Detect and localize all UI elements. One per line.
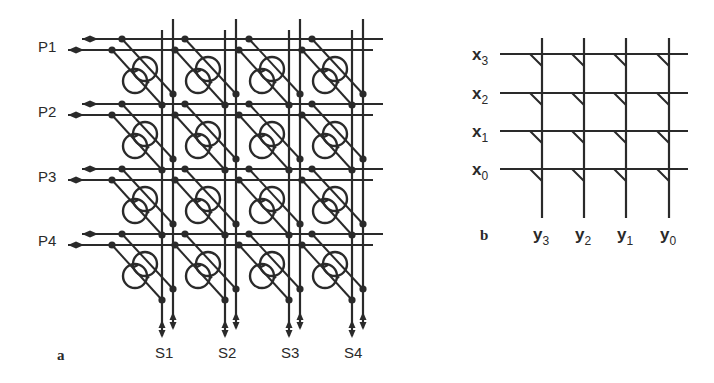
bidirectional-arrow-icon <box>68 47 84 54</box>
junction-dot <box>285 231 292 238</box>
diagonal-connector-line <box>122 104 173 159</box>
row-label-p4: P4 <box>38 232 56 249</box>
crosspoint-switch <box>171 230 239 303</box>
junction-dot <box>359 220 366 227</box>
junction-dot <box>285 101 292 108</box>
diagonal-connector-line <box>185 39 236 94</box>
crosspoint-tick <box>657 54 669 66</box>
junction-dot <box>359 285 366 292</box>
junction-dot <box>296 155 303 162</box>
junction-dot <box>232 220 239 227</box>
bidirectional-arrow-icon <box>82 231 98 238</box>
junction-dot <box>296 285 303 292</box>
crosspoint-switch <box>171 165 239 238</box>
crosspoint-tick <box>572 54 584 66</box>
crosspoint-tick <box>614 54 626 66</box>
row-label-p3: P3 <box>38 168 56 185</box>
junction-dot <box>169 220 176 227</box>
bidirectional-arrow-icon <box>68 242 84 249</box>
bidirectional-arrow-icon <box>68 112 84 119</box>
crosspoint-switch <box>298 165 366 238</box>
junction-dot <box>158 101 165 108</box>
crosspoint-switch <box>235 165 303 238</box>
row-label-x0: x0 <box>472 160 488 183</box>
crossbar-figure: P1 P2 P3 P4 S1 S2 S3 S4 a x3 x2 x1 x0 y3… <box>0 0 714 383</box>
diagonal-connector-line <box>185 234 236 289</box>
column-label-s2: S2 <box>218 344 236 361</box>
crosspoint-tick <box>657 131 669 143</box>
diagonal-connector-line <box>312 104 363 159</box>
column-label-s1: S1 <box>155 344 173 361</box>
crosspoint-switch <box>171 100 239 173</box>
junction-dot <box>232 285 239 292</box>
junction-dot <box>158 231 165 238</box>
junction-dot <box>232 155 239 162</box>
junction-dot <box>221 231 228 238</box>
crosspoint-tick <box>657 169 669 181</box>
diagonal-connector-line <box>249 234 300 289</box>
column-label-y2: y2 <box>575 225 591 248</box>
diagonal-connector-line <box>312 169 363 224</box>
crosspoint-tick <box>530 169 542 181</box>
column-label-y0: y0 <box>660 225 676 248</box>
panel-b-row-labels: x3 x2 x1 x0 <box>472 45 488 183</box>
junction-dot <box>348 231 355 238</box>
panel-a-crossbar-switch <box>68 19 383 338</box>
row-label-x2: x2 <box>472 84 488 107</box>
bidirectional-arrow-icon <box>82 101 98 108</box>
column-label-y3: y3 <box>533 225 549 248</box>
diagonal-connector-line <box>185 169 236 224</box>
crosspoint-switch <box>235 35 303 108</box>
diagonal-connector-line <box>312 39 363 94</box>
column-label-s3: S3 <box>281 344 299 361</box>
junction-dot <box>169 155 176 162</box>
row-label-x3: x3 <box>472 45 488 68</box>
junction-dot <box>232 90 239 97</box>
panel-label-a: a <box>57 347 65 363</box>
crosspoint-tick <box>530 93 542 105</box>
junction-dot <box>221 101 228 108</box>
junction-dot <box>221 296 228 303</box>
crosspoint-switch <box>235 100 303 173</box>
junction-dot <box>359 90 366 97</box>
junction-dot <box>348 101 355 108</box>
crosspoint-tick <box>572 169 584 181</box>
crosspoint-switch <box>108 35 176 108</box>
crosspoint-tick <box>530 54 542 66</box>
diagonal-connector-line <box>122 39 173 94</box>
junction-dot <box>348 296 355 303</box>
crosspoint-switch <box>171 35 239 108</box>
crosspoint-tick <box>614 131 626 143</box>
panel-b-crosspoint-grid <box>500 38 688 218</box>
junction-dot <box>158 166 165 173</box>
crosspoint-switch <box>108 100 176 173</box>
diagonal-connector-line <box>249 104 300 159</box>
crosspoint-tick <box>530 131 542 143</box>
column-label-s4: S4 <box>344 344 362 361</box>
crosspoint-tick <box>614 169 626 181</box>
column-label-y1: y1 <box>617 225 633 248</box>
crosspoint-switch <box>108 230 176 303</box>
crosspoint-tick <box>657 93 669 105</box>
junction-dot <box>359 155 366 162</box>
diagonal-connector-line <box>185 104 236 159</box>
junction-dot <box>169 90 176 97</box>
junction-dot <box>296 220 303 227</box>
diagonal-connector-line <box>122 169 173 224</box>
crosspoint-switch <box>235 230 303 303</box>
crosspoint-switch <box>108 165 176 238</box>
crosspoint-switch <box>298 100 366 173</box>
diagonal-connector-line <box>312 234 363 289</box>
diagonal-connector-line <box>249 39 300 94</box>
crosspoint-tick <box>614 93 626 105</box>
bidirectional-arrow-icon <box>68 177 84 184</box>
bidirectional-arrow-icon <box>82 36 98 43</box>
junction-dot <box>296 90 303 97</box>
junction-dot <box>348 166 355 173</box>
junction-dot <box>169 285 176 292</box>
junction-dot <box>285 296 292 303</box>
junction-dot <box>285 166 292 173</box>
panel-label-b: b <box>480 227 488 243</box>
panel-b-column-labels: y3 y2 y1 y0 <box>533 225 676 248</box>
crosspoint-tick <box>572 93 584 105</box>
